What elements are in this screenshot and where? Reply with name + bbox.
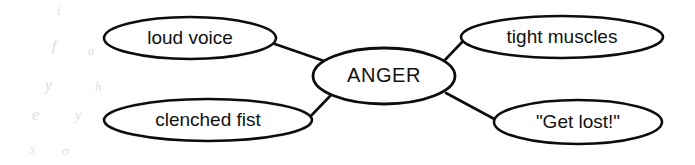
scan-artifact-mark: a — [88, 44, 94, 58]
node-label-loud-voice: loud voice — [147, 27, 233, 48]
connector-anger-to-clenched-fist — [308, 95, 331, 119]
node-get-lost[interactable]: "Get lost!" — [494, 100, 662, 144]
diagram-canvas: i f a y h e y s o loud voice tight muscl… — [0, 0, 695, 165]
node-clenched-fist[interactable]: clenched fist — [104, 99, 312, 141]
concept-map-diagram: i f a y h e y s o loud voice tight muscl… — [0, 0, 695, 165]
scan-artifact-mark: y — [73, 108, 82, 123]
background-artifacts-layer: i f a y h e y s o — [30, 3, 102, 158]
node-label-anger: ANGER — [347, 64, 421, 86]
connector-anger-to-tight-muscles — [444, 40, 464, 61]
scan-artifact-mark: o — [62, 143, 69, 158]
node-label-get-lost: "Get lost!" — [536, 111, 620, 132]
scan-artifact-mark: f — [52, 38, 58, 54]
node-anger-center[interactable]: ANGER — [313, 48, 455, 104]
node-tight-muscles[interactable]: tight muscles — [461, 16, 663, 58]
node-label-clenched-fist: clenched fist — [155, 109, 261, 130]
scan-artifact-mark: h — [95, 79, 102, 94]
connector-anger-to-get-lost — [446, 93, 498, 121]
scan-artifact-mark: i — [57, 3, 61, 18]
scan-artifact-mark: e — [32, 105, 40, 124]
node-loud-voice[interactable]: loud voice — [104, 17, 276, 59]
scan-artifact-mark: y — [43, 76, 53, 94]
scan-artifact-mark: s — [30, 141, 35, 156]
node-label-tight-muscles: tight muscles — [507, 26, 618, 47]
connector-anger-to-loud-voice — [272, 43, 327, 62]
